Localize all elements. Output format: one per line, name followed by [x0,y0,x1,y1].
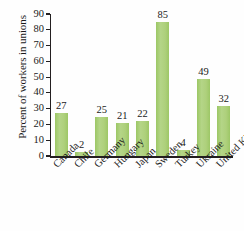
y-axis-tick-label: 30 [22,103,44,113]
y-axis-tick-label: 70 [22,40,44,50]
bar[interactable] [197,79,210,156]
bar-value-label: 32 [212,93,236,104]
y-axis-tick-label-text: 10 [24,135,44,145]
y-axis-tick-label: 0 [22,151,44,161]
y-axis-tick-label: 40 [22,87,44,97]
y-axis-tick-label: 60 [22,56,44,66]
bar-chart: Percent of workers in unions 01020304050… [0,0,244,231]
y-axis-tick-label-text: 80 [24,24,44,34]
y-axis-tick-label-text: 20 [24,119,44,129]
bar-value-label: 27 [49,100,73,111]
bar-value-label: 22 [131,108,155,119]
bars-layer: 2722521228544932 [50,14,233,156]
y-axis-tick-label-text: 40 [24,87,44,97]
bar-value-label: 85 [151,9,175,20]
y-axis-tick-label-text: 90 [24,9,44,19]
y-axis-tick-label: 20 [22,119,44,129]
y-axis-tick-label-text: 0 [24,151,44,161]
y-axis-tick-label: 80 [22,24,44,34]
y-axis-tick-label-text: 30 [24,103,44,113]
y-axis-tick-label-text: 70 [24,40,44,50]
y-axis-tick-label: 50 [22,72,44,82]
y-axis-tick-label: 90 [22,9,44,19]
y-axis-tick-label-text: 50 [24,72,44,82]
bar-value-label: 49 [192,66,216,77]
y-axis-tick-label: 10 [22,135,44,145]
y-axis-tick-label-text: 60 [24,56,44,66]
bar[interactable] [156,22,169,156]
